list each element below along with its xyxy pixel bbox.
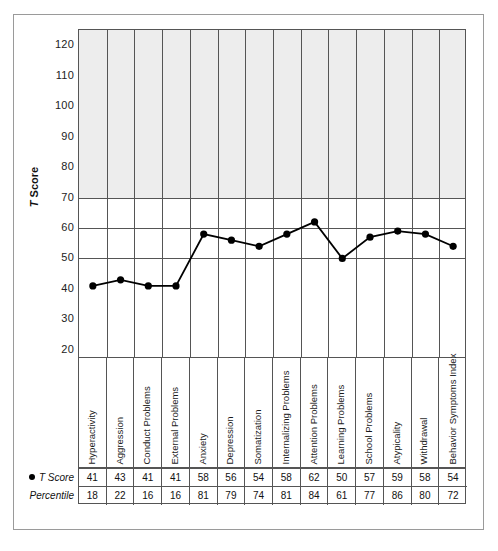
data-point-marker	[228, 237, 235, 244]
table-cell: 80	[412, 487, 440, 505]
table-cell: 18	[79, 487, 107, 505]
category-label: External Problems	[169, 386, 179, 464]
table-cell: 50	[328, 469, 356, 487]
category-label: Withdrawal	[419, 417, 429, 464]
chart-container: 2030405060708090100110120 T Score Hypera…	[78, 29, 466, 509]
score-table: T Score 4143414158565458625057595854 Per…	[78, 468, 466, 504]
category-cell: Withdrawal	[412, 358, 440, 468]
category-cell: Learning Problems	[328, 358, 356, 468]
category-cell: Behavior Symptoms Index	[439, 358, 467, 468]
y-tick-label: 120	[36, 38, 74, 50]
table-cell: 54	[439, 469, 467, 487]
data-point-marker	[394, 227, 401, 234]
data-point-marker	[200, 231, 207, 238]
data-point-marker	[339, 255, 346, 262]
category-cell: Somatization	[245, 358, 273, 468]
y-tick-label: 60	[36, 221, 74, 233]
category-label: Depression	[225, 416, 235, 464]
plot-area	[78, 29, 466, 358]
table-cell: 56	[218, 469, 246, 487]
data-point-marker	[450, 243, 457, 250]
data-point-marker	[283, 231, 290, 238]
category-label: Somatization	[253, 409, 263, 464]
table-cell: 43	[107, 469, 135, 487]
category-cell: School Problems	[356, 358, 384, 468]
category-label: School Problems	[363, 392, 373, 464]
table-cell: 59	[384, 469, 412, 487]
table-cell: 58	[190, 469, 218, 487]
data-point-marker	[145, 282, 152, 289]
category-label: Conduct Problems	[142, 386, 152, 464]
table-row: Percentile 1822161681797481846177868072	[79, 487, 467, 505]
category-cell: Atypicality	[384, 358, 412, 468]
table-cell: 79	[218, 487, 246, 505]
category-label: Behavior Symptoms Index	[447, 353, 457, 464]
data-point-marker	[256, 243, 263, 250]
table-cell: 72	[439, 487, 467, 505]
y-tick-label: 90	[36, 130, 74, 142]
y-tick-label: 100	[36, 99, 74, 111]
table-cell: 41	[162, 469, 190, 487]
y-axis-title-prefix: T	[28, 200, 40, 207]
category-label: Learning Problems	[336, 384, 346, 464]
data-point-marker	[89, 282, 96, 289]
table-cell: 77	[356, 487, 384, 505]
y-axis-title-suffix: Score	[28, 167, 40, 201]
table-cell: 22	[107, 487, 135, 505]
table-cell: 58	[412, 469, 440, 487]
y-tick-label: 20	[36, 343, 74, 355]
category-label: Aggression	[114, 416, 124, 464]
table-cell: 84	[301, 487, 329, 505]
table-row: T Score 4143414158565458625057595854	[79, 469, 467, 487]
data-point-marker	[172, 282, 179, 289]
y-axis-title: T Score	[28, 167, 40, 207]
y-axis: 2030405060708090100110120	[36, 29, 74, 358]
category-cell: Aggression	[107, 358, 135, 468]
category-cell: Anxiety	[190, 358, 218, 468]
table-cell: 74	[245, 487, 273, 505]
table-cell: 54	[245, 469, 273, 487]
y-tick-label: 30	[36, 312, 74, 324]
filled-circle-icon	[29, 474, 35, 480]
table-cell: 57	[356, 469, 384, 487]
row-header-percentile-label: Percentile	[30, 490, 74, 501]
category-label: Attention Problems	[308, 384, 318, 464]
category-cell: Conduct Problems	[134, 358, 162, 468]
category-cell: External Problems	[162, 358, 190, 468]
row-header-percentile: Percentile	[0, 487, 79, 505]
table-cell: 16	[134, 487, 162, 505]
table-cell: 41	[79, 469, 107, 487]
data-point-marker	[366, 234, 373, 241]
category-label-band: HyperactivityAggressionConduct ProblemsE…	[78, 358, 466, 468]
table-cell: 16	[162, 487, 190, 505]
data-point-marker	[422, 231, 429, 238]
data-point-marker	[311, 218, 318, 225]
category-cell: Attention Problems	[301, 358, 329, 468]
category-cell: Internalizing Problems	[273, 358, 301, 468]
table-cell: 58	[273, 469, 301, 487]
y-tick-label: 40	[36, 282, 74, 294]
y-tick-label: 70	[36, 191, 74, 203]
table-cell: 81	[273, 487, 301, 505]
table-cell: 81	[190, 487, 218, 505]
table-cell: 41	[134, 469, 162, 487]
table-cell: 62	[301, 469, 329, 487]
y-tick-label: 50	[36, 251, 74, 263]
figure-frame: 2030405060708090100110120 T Score Hypera…	[13, 14, 484, 530]
category-label: Anxiety	[197, 433, 207, 464]
table-cell: 86	[384, 487, 412, 505]
category-label: Internalizing Problems	[280, 370, 290, 464]
category-cell: Hyperactivity	[79, 358, 107, 468]
y-tick-label: 110	[36, 69, 74, 81]
category-label: Hyperactivity	[86, 410, 96, 464]
y-tick-label: 80	[36, 160, 74, 172]
category-label: Atypicality	[391, 421, 401, 464]
table-cell: 61	[328, 487, 356, 505]
category-cell: Depression	[218, 358, 246, 468]
t-score-line-series	[79, 30, 467, 359]
row-header-t-score: T Score	[0, 469, 79, 487]
figure-caption	[16, 538, 486, 549]
row-header-t-score-label: T Score	[39, 472, 74, 483]
data-point-marker	[117, 276, 124, 283]
